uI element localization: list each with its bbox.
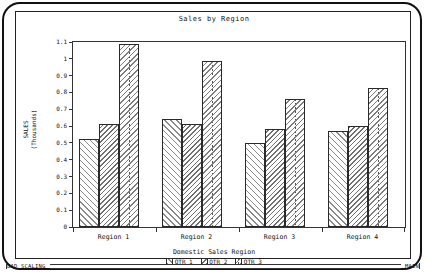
bar[interactable] bbox=[99, 124, 119, 227]
x-axis-tick-label: Region 3 bbox=[264, 233, 295, 241]
bar-group bbox=[328, 42, 388, 227]
status-right-label[interactable]: MAIN bbox=[403, 263, 419, 269]
bar-group bbox=[245, 42, 305, 227]
bar[interactable] bbox=[285, 99, 305, 227]
plot-area: 00.10.20.30.40.50.60.70.80.911.1 bbox=[72, 41, 406, 228]
y-axis-tick-label: 0.3 bbox=[56, 173, 67, 180]
plot-inner: 00.10.20.30.40.50.60.70.80.911.1 bbox=[73, 42, 405, 227]
bar[interactable] bbox=[119, 44, 139, 227]
bar[interactable] bbox=[202, 61, 222, 228]
x-axis-tick-mark bbox=[73, 228, 74, 232]
bar[interactable] bbox=[328, 131, 348, 227]
y-axis-tick-mark bbox=[69, 159, 73, 160]
bar[interactable] bbox=[79, 139, 99, 227]
bar[interactable] bbox=[245, 143, 265, 227]
bar[interactable] bbox=[162, 119, 182, 227]
x-axis-labels: Region 1Region 2Region 3Region 4 bbox=[72, 233, 406, 245]
application-screen: Sales by Region SALES (Thousands) 00.10.… bbox=[0, 0, 426, 275]
y-axis-tick-label: 0 bbox=[63, 223, 67, 230]
status-left-label[interactable]: BAD SCALING bbox=[7, 263, 48, 269]
x-axis-tick-mark bbox=[404, 228, 405, 232]
y-axis-tick-mark bbox=[69, 126, 73, 127]
y-axis-tick-label: 0.4 bbox=[56, 156, 67, 163]
y-axis-tick-label: 0.2 bbox=[56, 189, 67, 196]
y-axis-tick-mark bbox=[69, 109, 73, 110]
y-axis-tick-label: 0.9 bbox=[56, 72, 67, 79]
y-axis-tick-label: 1 bbox=[63, 55, 67, 62]
y-axis-tick-mark bbox=[69, 58, 73, 59]
bar[interactable] bbox=[368, 88, 388, 227]
y-axis-label-line2: (Thousands) bbox=[29, 97, 37, 163]
y-axis-tick-mark bbox=[69, 42, 73, 43]
bar-group bbox=[162, 42, 222, 227]
bar[interactable] bbox=[348, 126, 368, 227]
x-axis-label: Domestic Sales Region bbox=[16, 248, 412, 256]
x-axis-tick-label: Region 2 bbox=[181, 233, 212, 241]
x-axis-tick-label: Region 1 bbox=[98, 233, 129, 241]
y-axis-label: SALES (Thousands) bbox=[14, 116, 44, 146]
y-axis-tick-label: 0.7 bbox=[56, 105, 67, 112]
y-axis-label-line1: SALES bbox=[22, 120, 29, 138]
x-axis-tick-label: Region 4 bbox=[347, 233, 378, 241]
page-title: Sales by Region bbox=[16, 15, 412, 23]
x-axis-tick-mark bbox=[239, 228, 240, 232]
y-axis-tick-label: 0.5 bbox=[56, 139, 67, 146]
bar[interactable] bbox=[265, 129, 285, 227]
y-axis-tick-mark bbox=[69, 75, 73, 76]
status-bar: BAD SCALING MAIN bbox=[6, 261, 420, 271]
y-axis-tick-label: 0.8 bbox=[56, 88, 67, 95]
bar-group bbox=[79, 42, 139, 227]
chart-frame: Sales by Region SALES (Thousands) 00.10.… bbox=[15, 11, 411, 259]
y-axis-tick-mark bbox=[69, 142, 73, 143]
y-axis-tick-mark bbox=[69, 193, 73, 194]
status-divider bbox=[50, 264, 401, 269]
y-axis-tick-label: 0.1 bbox=[56, 206, 67, 213]
bar[interactable] bbox=[182, 124, 202, 227]
y-axis-tick-mark bbox=[69, 176, 73, 177]
y-axis-tick-mark bbox=[69, 92, 73, 93]
status-tick-right bbox=[419, 263, 420, 269]
y-axis-tick-label: 0.6 bbox=[56, 122, 67, 129]
x-axis-tick-mark bbox=[322, 228, 323, 232]
y-axis-tick-label: 1.1 bbox=[56, 38, 67, 45]
x-axis-tick-mark bbox=[156, 228, 157, 232]
y-axis-tick-mark bbox=[69, 210, 73, 211]
